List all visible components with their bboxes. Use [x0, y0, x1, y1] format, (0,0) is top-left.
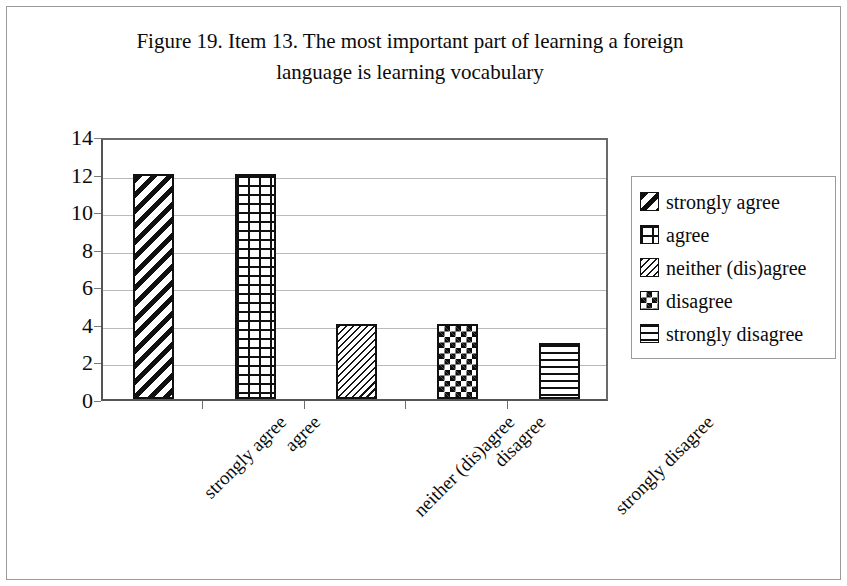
chart-title-line-2: language is learning vocabulary — [60, 57, 760, 88]
y-axis-tick — [94, 213, 101, 214]
bar-strongly-disagree — [539, 343, 580, 399]
y-axis-tick-label: 4 — [82, 315, 93, 337]
gridline — [103, 290, 606, 291]
gridline — [103, 253, 606, 254]
y-axis-tick — [94, 138, 101, 139]
legend-swatch-icon — [640, 291, 659, 310]
legend-swatch-icon — [640, 225, 659, 244]
legend-item-label: neither (dis)agree — [666, 258, 806, 278]
legend-item-label: strongly disagree — [666, 324, 803, 344]
y-axis-tick-label: 0 — [82, 390, 93, 412]
y-axis-tick — [94, 288, 101, 289]
legend-item-label: agree — [666, 225, 709, 245]
y-axis-tick — [94, 176, 101, 177]
y-axis-tick-label: 12 — [71, 165, 93, 187]
bar-strongly-agree — [133, 174, 174, 399]
bar-disagree — [437, 324, 478, 399]
x-axis-label-agree: agree — [281, 412, 324, 455]
x-axis-label-strongly-agree: strongly agree — [200, 412, 290, 502]
chart-title: Figure 19. Item 13. The most important p… — [60, 26, 760, 88]
plot-area — [101, 138, 608, 401]
gridline — [103, 215, 606, 216]
y-axis-labels: 02468101214 — [45, 138, 93, 401]
x-axis-tick — [202, 401, 203, 409]
x-axis-tick — [304, 401, 305, 409]
legend-swatch-icon — [640, 324, 659, 343]
y-axis-tick-label: 14 — [71, 127, 93, 149]
bar-agree — [235, 174, 276, 399]
bar-neither-dis-agree — [336, 324, 377, 399]
y-axis-tick — [94, 326, 101, 327]
y-axis-tick — [94, 251, 101, 252]
legend-swatch-icon — [640, 258, 659, 277]
legend-item-strongly-agree[interactable]: strongly agree — [640, 185, 835, 218]
x-axis-label-strongly-disagree: strongly disagree — [611, 412, 717, 518]
legend-item-agree[interactable]: agree — [640, 218, 835, 251]
y-axis-tick-label: 8 — [82, 240, 93, 262]
legend-item-neither-dis-agree[interactable]: neither (dis)agree — [640, 251, 835, 284]
x-axis-tick — [507, 401, 508, 409]
chart-title-line-1: Figure 19. Item 13. The most important p… — [60, 26, 760, 57]
y-axis-tick-label: 6 — [82, 277, 93, 299]
legend-item-label: disagree — [666, 291, 733, 311]
y-axis-tick-label: 2 — [82, 352, 93, 374]
gridline — [103, 178, 606, 179]
legend-item-strongly-disagree[interactable]: strongly disagree — [640, 317, 835, 350]
y-axis-tick — [94, 363, 101, 364]
y-axis-tick — [94, 401, 101, 402]
legend-item-label: strongly agree — [666, 192, 780, 212]
legend-swatch-icon — [640, 192, 659, 211]
legend-item-disagree[interactable]: disagree — [640, 284, 835, 317]
x-axis-tick — [405, 401, 406, 409]
figure-page: Figure 19. Item 13. The most important p… — [0, 0, 847, 586]
y-axis-tick-label: 10 — [71, 202, 93, 224]
chart-legend: strongly agreeagreeneither (dis)agreedis… — [631, 176, 836, 359]
